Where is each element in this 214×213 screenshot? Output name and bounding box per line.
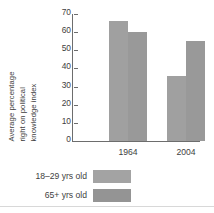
y-axis-tick: 30 xyxy=(42,87,78,88)
x-axis-tick-label: 1964 xyxy=(108,147,148,157)
legend-item-label: 18–29 yrs old xyxy=(35,171,87,181)
legend-color-swatch xyxy=(93,170,131,183)
y-axis-tick-label: 20 xyxy=(62,99,71,107)
y-axis-tick-mark xyxy=(74,123,78,124)
legend-color-swatch xyxy=(93,189,131,202)
y-axis-tick: 40 xyxy=(42,68,78,69)
legend-item: 65+ yrs old xyxy=(6,187,131,203)
y-axis-tick: 10 xyxy=(42,123,78,124)
y-axis-tick-label: 50 xyxy=(62,44,71,52)
bar xyxy=(167,76,186,141)
x-axis-tick-label: 2004 xyxy=(166,147,206,157)
bar xyxy=(109,21,128,141)
y-axis-tick-label: 40 xyxy=(62,62,71,70)
y-axis-tick-mark xyxy=(74,50,78,51)
y-axis-title-line-2: right on political xyxy=(19,87,27,142)
y-axis-tick-mark xyxy=(74,141,78,142)
y-axis-tick-label: 10 xyxy=(62,117,71,125)
bar-chart-figure: Average percentage right on political kn… xyxy=(0,0,214,213)
y-axis-tick: 0 xyxy=(42,141,78,142)
y-axis-tick: 50 xyxy=(42,50,78,51)
y-axis-tick-mark xyxy=(74,68,78,69)
legend-item-label: 65+ yrs old xyxy=(45,190,87,200)
y-axis-title-line-3: knowledge index xyxy=(30,84,38,142)
y-axis-tick-label: 30 xyxy=(62,81,71,89)
bar xyxy=(128,32,147,141)
y-axis-tick-label: 60 xyxy=(62,26,71,34)
y-axis-tick: 70 xyxy=(42,14,78,15)
bar xyxy=(186,41,205,141)
y-axis-tick-mark xyxy=(74,105,78,106)
y-axis-tick: 60 xyxy=(42,32,78,33)
x-axis-line xyxy=(72,141,200,142)
y-axis-tick-mark xyxy=(74,87,78,88)
y-axis-tick-mark xyxy=(74,14,78,15)
legend-item: 18–29 yrs old xyxy=(6,168,131,184)
y-axis-tick-label: 70 xyxy=(62,8,71,16)
y-axis-title-line-1: Average percentage xyxy=(8,72,16,142)
chart-legend: 18–29 yrs old65+ yrs old xyxy=(6,168,131,206)
plot-area: 010203040506070 19642004 xyxy=(72,14,200,142)
y-axis-tick-mark xyxy=(74,32,78,33)
y-axis-tick: 20 xyxy=(42,105,78,106)
bottom-divider xyxy=(0,206,214,207)
y-axis-tick-label: 0 xyxy=(66,135,71,143)
